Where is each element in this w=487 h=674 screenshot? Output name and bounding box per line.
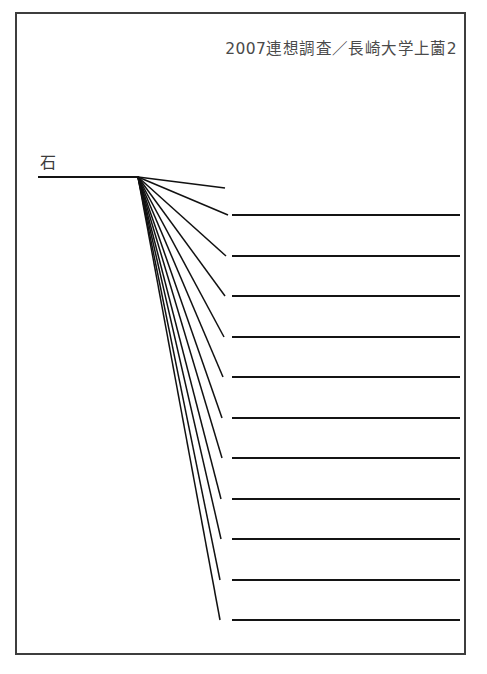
- diagram-canvas: 2007連想調査／長崎大学上薗2 石: [0, 0, 487, 674]
- root-node-label: 石: [40, 153, 56, 172]
- page-border: [16, 13, 465, 654]
- page-title: 2007連想調査／長崎大学上薗2: [225, 40, 457, 58]
- fan-tree-svg: 2007連想調査／長崎大学上薗2 石: [0, 0, 487, 674]
